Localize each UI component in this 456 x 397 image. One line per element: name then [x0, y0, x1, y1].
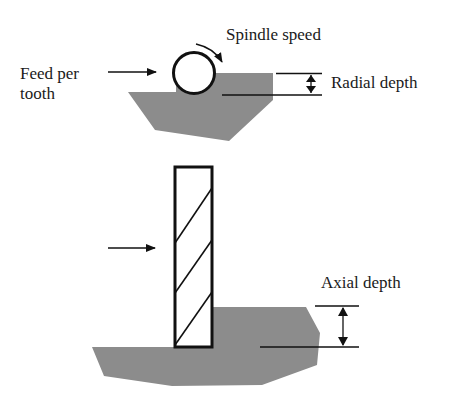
- radial-depth-label: Radial depth: [331, 73, 418, 92]
- end-mill-cutter: [175, 167, 212, 347]
- cutter-top-view: [174, 53, 215, 94]
- axial-depth-label: Axial depth: [321, 273, 401, 292]
- feed-per-tooth-label-line2: tooth: [20, 84, 55, 103]
- radial-depth-dimension-arrow-icon: [306, 75, 316, 93]
- axial-depth-dimension-arrow-icon: [338, 307, 348, 346]
- milling-diagram: Feed per tooth Spindle speed Radial dept…: [0, 0, 456, 397]
- side-view: Axial depth: [92, 167, 401, 386]
- spindle-speed-label: Spindle speed: [226, 25, 321, 44]
- top-view: Feed per tooth Spindle speed Radial dept…: [20, 25, 418, 141]
- feed-per-tooth-label-line1: Feed per: [20, 64, 79, 83]
